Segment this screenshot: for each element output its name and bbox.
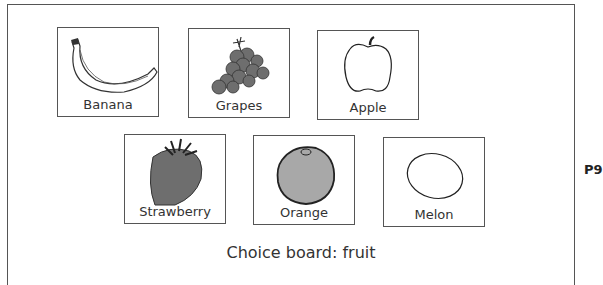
apple-icon	[318, 31, 420, 103]
card-label: Melon	[384, 207, 484, 222]
strawberry-icon	[125, 135, 227, 207]
card-banana[interactable]: Banana	[57, 27, 159, 117]
board-caption: Choice board: fruit	[0, 243, 602, 262]
card-apple[interactable]: Apple	[317, 30, 419, 120]
card-label: Orange	[254, 205, 354, 220]
melon-icon	[384, 138, 486, 210]
card-label: Apple	[318, 100, 418, 115]
card-melon[interactable]: Melon	[383, 137, 485, 227]
card-strawberry[interactable]: Strawberry	[124, 134, 226, 224]
card-grapes[interactable]: Grapes	[188, 28, 290, 118]
grapes-icon	[189, 29, 291, 101]
orange-icon	[254, 136, 356, 208]
card-label: Grapes	[189, 98, 289, 113]
page-number: P9	[584, 162, 603, 177]
banana-icon	[58, 28, 160, 100]
card-orange[interactable]: Orange	[253, 135, 355, 225]
card-label: Strawberry	[125, 204, 225, 219]
card-label: Banana	[58, 97, 158, 112]
